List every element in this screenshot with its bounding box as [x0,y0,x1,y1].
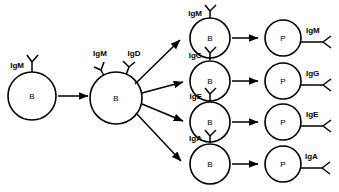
row-iga-receptor-label: IgA [189,134,202,143]
diagram-canvas: IgM B IgM IgD B [0,0,339,192]
immunology-diagram: IgM B IgM IgD B [0,0,339,192]
arrow-branch-igm [135,40,180,84]
row-igm-receptor-icon [205,5,216,18]
row-ige-secreted-label: IgE [306,110,319,119]
row-igm: IgM B P IgM [188,5,331,58]
activated-b-cell-group: IgM IgD B [90,49,142,124]
row-iga-plasma-cell-letter: P [280,160,285,169]
row-iga: IgA B P IgA [189,130,330,184]
row-igg-secreted-label: IgG [306,69,319,78]
row-iga-secreted-antibody-icon [301,162,330,174]
row-ige-receptor-label: IgE [190,92,203,101]
row-iga-secreted-label: IgA [305,152,318,161]
row-igg-secreted-antibody-icon [301,79,331,91]
row-ige-secreted-antibody-icon [301,120,331,132]
arrow-branch-ige [142,104,183,121]
row-ige-b-cell-letter: B [207,118,212,127]
activated-b-cell-letter: B [113,94,118,103]
row-igg-plasma-cell-letter: P [280,77,285,86]
activated-igm-label: IgM [93,49,107,58]
row-igm-secreted-antibody-icon [301,36,331,48]
naive-igm-label: IgM [10,61,24,70]
row-igm-secreted-label: IgM [306,26,320,35]
naive-igm-receptor-icon [27,55,38,72]
activated-igd-label: IgD [128,49,141,58]
row-iga-b-cell-letter: B [207,160,212,169]
row-igg-b-cell-letter: B [207,77,212,86]
naive-b-cell-group: IgM B [8,55,56,120]
row-ige-plasma-cell-letter: P [280,118,285,127]
row-igm-b-cell-letter: B [207,34,212,43]
arrow-branch-igg [142,82,183,93]
row-igg-receptor-label: IgG [189,51,202,60]
naive-b-cell-letter: B [29,92,34,101]
arrow-branch-iga [136,113,181,161]
row-igm-receptor-label: IgM [188,9,202,18]
row-igm-plasma-cell-letter: P [280,34,285,43]
